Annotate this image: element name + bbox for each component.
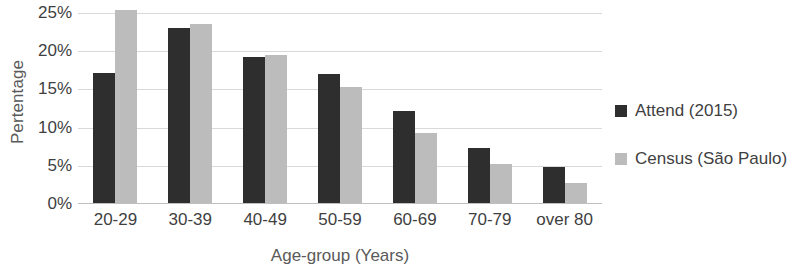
bar (415, 133, 437, 204)
x-axis-tick-label: 50-59 (303, 210, 378, 230)
legend-swatch-icon (615, 105, 627, 117)
x-axis-tick-label: 20-29 (78, 210, 153, 230)
bar-group (303, 13, 378, 204)
x-axis-tick-label: 70-79 (452, 210, 527, 230)
x-axis-tick-labels: 20-2930-3940-4950-5960-6970-79over 80 (78, 210, 602, 230)
bar-groups (78, 13, 602, 204)
y-axis-tick-labels: 0%5%10%15%20%25% (22, 0, 72, 215)
bar-group (527, 13, 602, 204)
bar (115, 10, 137, 204)
bar-group (452, 13, 527, 204)
x-axis-tick-label: 60-69 (377, 210, 452, 230)
bar (543, 167, 565, 204)
bar (393, 111, 415, 204)
bar-group (78, 13, 153, 204)
y-axis-tick-label: 20% (22, 42, 72, 59)
bar-group (377, 13, 452, 204)
bar (490, 164, 512, 204)
bar (243, 57, 265, 204)
bar (468, 148, 490, 204)
legend-label: Attend (2015) (635, 101, 738, 121)
bar (565, 183, 587, 204)
legend-item: Attend (2015) (615, 96, 795, 126)
x-axis-tick-label: over 80 (527, 210, 602, 230)
y-axis-tick-label: 25% (22, 4, 72, 21)
bar (168, 28, 190, 204)
plot-area (78, 13, 602, 204)
legend-label: Census (São Paulo) (635, 149, 787, 169)
y-axis-tick-label: 0% (22, 195, 72, 212)
legend-swatch-icon (615, 153, 627, 165)
legend-item: Census (São Paulo) (615, 144, 795, 174)
y-axis-tick-label: 5% (22, 157, 72, 174)
bar (265, 55, 287, 204)
bar (190, 24, 212, 204)
y-axis-tick-label: 15% (22, 80, 72, 97)
bar-group (153, 13, 228, 204)
x-axis-tick-label: 40-49 (228, 210, 303, 230)
y-axis-tick-label: 10% (22, 119, 72, 136)
bar (93, 73, 115, 204)
x-axis-title: Age-group (Years) (78, 246, 602, 266)
x-axis-tick-label: 30-39 (153, 210, 228, 230)
legend: Attend (2015)Census (São Paulo) (615, 96, 795, 192)
x-axis-baseline (78, 203, 602, 204)
bar-group (228, 13, 303, 204)
bar-chart: Pertentage 0%5%10%15%20%25% 20-2930-3940… (0, 0, 796, 278)
bar (340, 87, 362, 204)
bar (318, 74, 340, 204)
